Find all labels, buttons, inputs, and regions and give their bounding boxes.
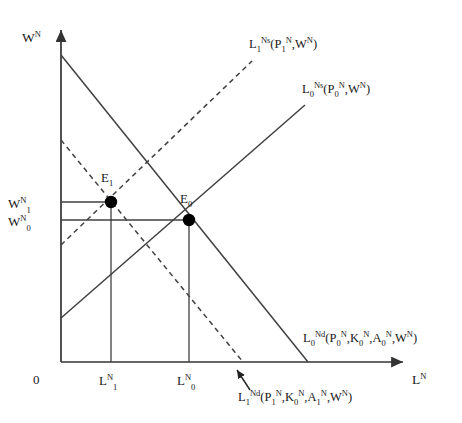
quantity-label-0: LN0 <box>177 372 195 392</box>
curve-label-demand-0: L0Nd(P0N,K0N,A0N,WN) <box>303 329 417 348</box>
wage-label-1: WN1 <box>8 195 31 215</box>
demand-shift-arrow <box>237 370 250 390</box>
wage-label-0: WN0 <box>8 213 31 233</box>
equilibrium-point-E0 <box>183 214 195 226</box>
equilibrium-point-E1 <box>105 196 117 208</box>
curve-label-supply-1: L1Ns(P1N,WN) <box>249 35 317 54</box>
labour-market-diagram: WN LN 0 WN1 WN0 LN1 LN0 E1 E0 L1Ns(P1N,W… <box>0 0 462 423</box>
equilibrium-label-E1: E1 <box>101 170 113 188</box>
y-axis-title: WN <box>22 29 41 45</box>
labour-supply-curve-0 <box>61 105 305 318</box>
x-axis-title: LN <box>412 371 426 387</box>
curve-label-supply-0: L0Ns(P0N,WN) <box>302 80 370 99</box>
diagram-canvas: WN LN 0 WN1 WN0 LN1 LN0 E1 E0 L1Ns(P1N,W… <box>0 0 462 423</box>
curve-label-demand-1: L1Nd(P1N,K0N,A1N,WN) <box>238 388 352 407</box>
labour-supply-curve-1 <box>61 61 252 245</box>
labour-demand-curve-0 <box>61 55 308 362</box>
origin-label: 0 <box>33 372 40 387</box>
labour-demand-curve-1 <box>61 140 243 362</box>
quantity-label-1: LN1 <box>99 372 117 392</box>
